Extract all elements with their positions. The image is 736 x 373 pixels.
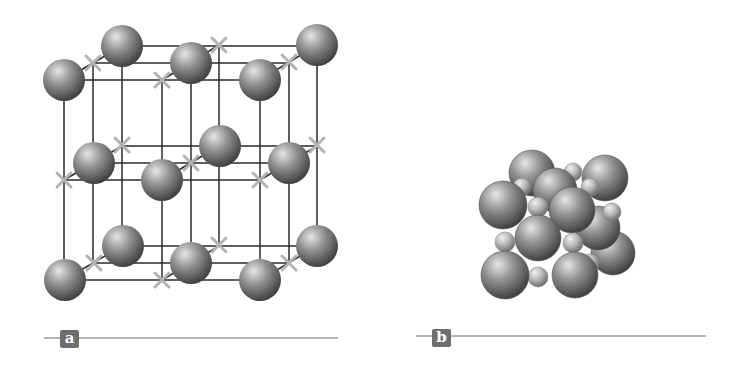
small-ion-sphere [603, 203, 621, 221]
panel-b-label: b [432, 329, 451, 347]
large-ion-sphere [296, 24, 338, 66]
panel-a-rule [44, 337, 338, 339]
small-ion-sphere [528, 197, 548, 217]
large-ion-sphere [170, 242, 212, 284]
large-ion-sphere [515, 215, 561, 261]
small-ion-sphere [495, 232, 515, 252]
large-ion-sphere [199, 125, 241, 167]
small-ion-sphere [563, 233, 583, 253]
large-ion-sphere [296, 225, 338, 267]
large-ion-sphere [170, 42, 212, 84]
panel-a-expanded-lattice [43, 24, 338, 301]
panel-b-packed-model [479, 150, 635, 299]
crystal-structure-figure [0, 0, 736, 373]
large-ion-sphere [141, 159, 183, 201]
large-ion-sphere [239, 59, 281, 101]
large-ion-sphere [481, 251, 529, 299]
large-ion-sphere [268, 142, 310, 184]
small-ion-sphere [528, 267, 548, 287]
large-ion-sphere [102, 225, 144, 267]
large-ion-sphere [479, 181, 527, 229]
large-ion-sphere [73, 142, 115, 184]
panel-a-label: a [60, 330, 79, 348]
large-ion-sphere [101, 25, 143, 67]
large-ion-sphere [43, 59, 85, 101]
large-ion-sphere [44, 259, 86, 301]
large-ion-sphere [552, 252, 598, 298]
large-ion-sphere [239, 259, 281, 301]
figure-canvas: a b [0, 0, 736, 373]
panel-b-rule [416, 335, 706, 337]
